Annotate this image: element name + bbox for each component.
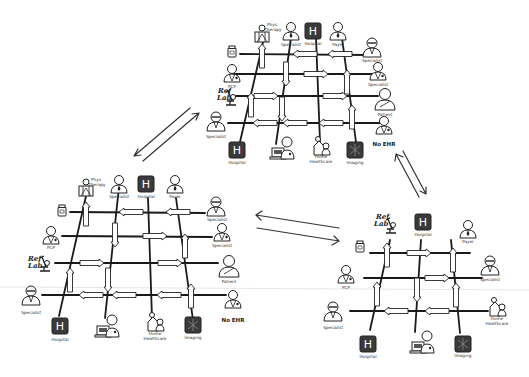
node-label: Hospital: [414, 232, 431, 237]
person-icon: [481, 256, 499, 275]
person-icon: [330, 23, 346, 41]
person-icon: [460, 221, 476, 239]
pharmacy-bottle-icon: [228, 46, 236, 57]
node-label: Specialist: [207, 217, 227, 222]
node-label: Payer: [169, 194, 181, 199]
node-label: No EHR: [222, 317, 246, 323]
hospital-icon: [415, 214, 431, 230]
connector-top-right: [395, 151, 426, 197]
node-label: Hospital: [228, 160, 245, 165]
connector-left-right: [256, 211, 339, 245]
hospital-icon: [229, 142, 245, 158]
node-label: Therapy: [87, 182, 106, 187]
node-label: Imaging: [454, 353, 471, 358]
connector-top-left: [134, 108, 199, 161]
node-label: Hospital: [304, 41, 321, 46]
hospital-icon: [360, 336, 376, 352]
node-label: Hospital: [51, 337, 68, 342]
person-icon: [283, 23, 299, 41]
doctor-icon: [370, 63, 386, 81]
node-label: Imaging: [346, 160, 363, 165]
grid-top: Phys Therapy Specialist Hospital Payer P…: [206, 22, 396, 165]
node-label: Specialist: [480, 277, 500, 282]
computer-doctor-icon: [270, 137, 294, 159]
node-label: Healthcare: [144, 336, 167, 341]
doctor-icon: [324, 302, 342, 321]
pharmacy-bottle-icon: [58, 205, 66, 216]
node-label: Lab: [27, 261, 42, 270]
node-label: Hospital: [137, 194, 154, 199]
imaging-icon: [185, 317, 201, 333]
node-label: Specialist: [109, 194, 129, 199]
node-label: Specialist: [212, 243, 232, 248]
grid-right: Ref Lab Hospital Payer PCP Specialist Sp…: [323, 212, 509, 359]
node-label: Specialist: [21, 310, 41, 315]
node-label: No EHR: [373, 141, 397, 147]
node-label: Payer: [332, 42, 344, 47]
hospital-icon: [52, 318, 68, 334]
node-label: Lab: [373, 219, 388, 228]
doctor-icon: [225, 291, 241, 309]
computer-doctor-icon: [95, 315, 119, 337]
paper-fold-line: [0, 287, 529, 290]
person-icon: [207, 197, 225, 216]
imaging-icon: [455, 336, 471, 352]
node-label: Patient: [222, 279, 237, 284]
computer-doctor-icon: [410, 331, 434, 353]
node-label: Therapy: [263, 27, 282, 32]
hospital-icon: [138, 176, 154, 192]
home-healthcare-icon: [314, 137, 330, 156]
node-label: Healthcare: [486, 321, 509, 326]
node-label: Hospital: [359, 354, 376, 359]
home-healthcare-icon: [148, 313, 164, 332]
person-icon: [167, 176, 183, 194]
node-label: Specialist: [281, 42, 301, 47]
patient-icon: [375, 89, 395, 111]
node-label: Specialist: [323, 325, 343, 330]
node-label: Imaging: [184, 335, 201, 340]
node-label: PCP: [47, 245, 55, 250]
doctor-icon: [338, 266, 354, 284]
node-label: PCP: [342, 285, 350, 290]
person-icon: [363, 38, 381, 57]
interoperability-diagram: H: [0, 0, 529, 377]
doctor-icon: [214, 224, 230, 242]
hospital-icon: [305, 23, 321, 39]
node-label: Healthcare: [310, 159, 333, 164]
node-label: Specialist: [368, 82, 388, 87]
doctor-icon: [207, 112, 225, 131]
patient-icon: [219, 256, 239, 278]
grid-left: Phys Therapy Specialist Hospital Payer P…: [21, 176, 245, 343]
node-label: Specialist: [206, 134, 226, 139]
doctor-icon: [376, 117, 392, 135]
person-icon: [111, 176, 127, 194]
home-healthcare-icon: [490, 298, 506, 317]
imaging-icon: [347, 142, 363, 158]
pharmacy-bottle-icon: [356, 241, 364, 252]
doctor-icon: [43, 227, 59, 245]
doctor-icon: [22, 286, 40, 305]
node-label: Payer: [462, 239, 474, 244]
